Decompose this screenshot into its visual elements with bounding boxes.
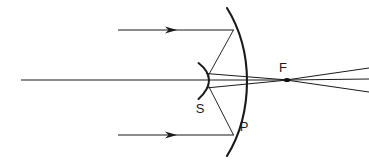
diverging-ray-upper-line: [286, 68, 369, 80]
focal-point-dot-icon: [284, 78, 291, 82]
optics-diagram-svg: F S P: [0, 0, 369, 163]
label-primary-mirror: P: [240, 119, 249, 134]
reflected-ray-bottom-line: [208, 84, 234, 135]
label-secondary-mirror: S: [196, 101, 205, 116]
diverging-ray-lower-line: [286, 80, 369, 92]
secondary-mirror-arc-path: [199, 63, 210, 99]
reflected-ray-top-line: [208, 30, 234, 77]
label-focus: F: [279, 60, 287, 75]
optics-diagram-canvas: F S P: [0, 0, 369, 163]
diverging-ray-middle-line: [286, 79, 369, 80]
